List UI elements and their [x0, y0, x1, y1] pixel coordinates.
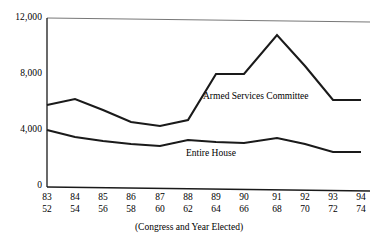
- x-tick-year: 60: [149, 204, 171, 216]
- x-tick-congress: 84: [64, 192, 86, 204]
- x-tick-year: 64: [205, 204, 227, 216]
- chart-figure: 12,000 8,000 4,000 0 83 52 84 54 85 56 8…: [0, 0, 378, 245]
- x-tick-congress: 93: [322, 192, 344, 204]
- x-tick-90: 90 66: [233, 192, 255, 215]
- x-tick-87: 87 60: [149, 192, 171, 215]
- x-tick-year: 52: [36, 204, 58, 216]
- x-tick-year: 68: [266, 204, 288, 216]
- series-label-armed-services: Armed Services Committee: [203, 91, 309, 101]
- x-tick-year: 56: [92, 204, 114, 216]
- x-tick-congress: 85: [92, 192, 114, 204]
- y-tick-label-8000: 8,000: [4, 68, 42, 78]
- plot-top-rule: [47, 18, 370, 22]
- x-tick-year: 66: [233, 204, 255, 216]
- x-tick-83: 83 52: [36, 192, 58, 215]
- x-tick-year: 62: [177, 204, 199, 216]
- x-axis-caption: (Congress and Year Elected): [0, 222, 378, 232]
- x-tick-year: 54: [64, 204, 86, 216]
- series-line-armed-services: [47, 35, 361, 126]
- x-tick-congress: 90: [233, 192, 255, 204]
- y-tick-label-12000: 12,000: [4, 12, 42, 22]
- x-tick-year: 58: [120, 204, 142, 216]
- y-tick-label-0: 0: [4, 180, 42, 190]
- x-tick-congress: 91: [266, 192, 288, 204]
- x-tick-94: 94 74: [350, 192, 372, 215]
- x-tick-88: 88 62: [177, 192, 199, 215]
- x-tick-93: 93 72: [322, 192, 344, 215]
- x-tick-congress: 88: [177, 192, 199, 204]
- y-tick-label-4000: 4,000: [4, 124, 42, 134]
- x-tick-92: 92 70: [294, 192, 316, 215]
- x-tick-84: 84 54: [64, 192, 86, 215]
- x-tick-congress: 94: [350, 192, 372, 204]
- x-tick-86: 86 58: [120, 192, 142, 215]
- series-label-entire-house: Entire House: [186, 148, 236, 158]
- x-axis-line: [47, 187, 370, 191]
- x-tick-congress: 86: [120, 192, 142, 204]
- x-tick-91: 91 68: [266, 192, 288, 215]
- x-tick-year: 74: [350, 204, 372, 216]
- x-tick-congress: 87: [149, 192, 171, 204]
- x-tick-89: 89 64: [205, 192, 227, 215]
- x-tick-year: 72: [322, 204, 344, 216]
- x-tick-congress: 89: [205, 192, 227, 204]
- x-tick-congress: 92: [294, 192, 316, 204]
- x-tick-year: 70: [294, 204, 316, 216]
- x-tick-85: 85 56: [92, 192, 114, 215]
- x-tick-congress: 83: [36, 192, 58, 204]
